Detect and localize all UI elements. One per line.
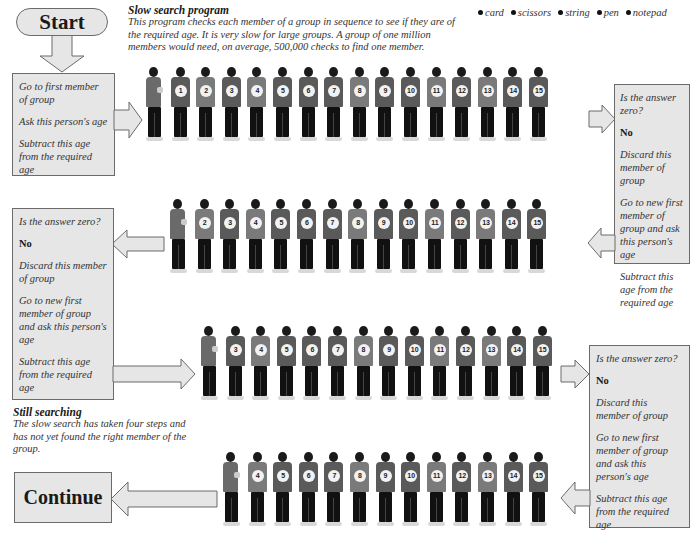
group-member: 15 bbox=[532, 322, 552, 402]
group-member: 5 bbox=[270, 195, 290, 275]
group-member: 5 bbox=[272, 448, 292, 528]
group-member: 9 bbox=[373, 195, 393, 275]
bullet-icon bbox=[597, 10, 602, 15]
program-title: Slow search program bbox=[128, 4, 468, 16]
group-member: 7 bbox=[322, 195, 342, 275]
group-member: 9 bbox=[378, 322, 398, 402]
group-member: 7 bbox=[327, 322, 347, 402]
bullet-icon bbox=[558, 10, 563, 15]
step3-box: Is the answer zero? No Discard this memb… bbox=[12, 208, 114, 400]
program-header: Slow search program This program checks … bbox=[128, 4, 468, 54]
group-member: 6 bbox=[296, 195, 316, 275]
group-member: 6 bbox=[298, 448, 318, 528]
group-member: 11 bbox=[426, 63, 446, 143]
group-member: 10 bbox=[404, 322, 424, 402]
group-member: 2 bbox=[195, 63, 215, 143]
group-member: 1 bbox=[170, 63, 190, 143]
group-member: 11 bbox=[429, 322, 449, 402]
arrow-down-icon bbox=[38, 34, 86, 74]
group-member: 7 bbox=[323, 63, 343, 143]
group-member: 13 bbox=[477, 448, 497, 528]
legend-item-pen: pen bbox=[597, 7, 619, 18]
group-member: 14 bbox=[501, 195, 521, 275]
group-member: 12 bbox=[455, 322, 475, 402]
group-member: 8 bbox=[353, 322, 373, 402]
arrow-right-icon bbox=[114, 102, 142, 138]
group-member: 11 bbox=[424, 195, 444, 275]
legend-item-string: string bbox=[558, 7, 590, 18]
bullet-icon bbox=[478, 10, 483, 15]
group-row-2: 2 3 4 5 6 7 8 9 10 11 12 13 14 15 bbox=[168, 195, 552, 275]
group-member: 15 bbox=[528, 63, 548, 143]
group-member: 12 bbox=[451, 63, 471, 143]
arrow-left-icon bbox=[111, 482, 217, 516]
searcher bbox=[168, 195, 188, 275]
group-row-1: 1 2 3 4 5 6 7 8 9 10 11 12 13 14 15 bbox=[144, 63, 554, 143]
group-member: 15 bbox=[526, 195, 546, 275]
group-member: 8 bbox=[347, 195, 367, 275]
group-member: 4 bbox=[245, 195, 265, 275]
searcher bbox=[199, 322, 219, 402]
arrow-right-icon bbox=[113, 359, 195, 389]
group-member: 4 bbox=[246, 63, 266, 143]
group-member: 11 bbox=[426, 448, 446, 528]
legend-item-scissors: scissors bbox=[511, 7, 551, 18]
group-member: 3 bbox=[225, 322, 245, 402]
group-member: 9 bbox=[374, 63, 394, 143]
step2-box: Is the answer zero? No Discard this memb… bbox=[614, 84, 690, 264]
status-block: Still searching The slow search has take… bbox=[13, 406, 188, 456]
group-member: 10 bbox=[400, 448, 420, 528]
status-description: The slow search has taken four steps and… bbox=[13, 418, 188, 456]
arrow-right-icon bbox=[561, 360, 589, 388]
legend-item-notepad: notepad bbox=[626, 7, 667, 18]
continue-button[interactable]: Continue bbox=[14, 472, 112, 523]
group-member: 13 bbox=[475, 195, 495, 275]
group-member: 13 bbox=[481, 322, 501, 402]
group-member: 5 bbox=[276, 322, 296, 402]
arrow-left-icon bbox=[588, 228, 615, 258]
step4-box: Is the answer zero? No Discard this memb… bbox=[589, 345, 690, 528]
status-title: Still searching bbox=[13, 406, 188, 418]
group-member: 6 bbox=[298, 63, 318, 143]
start-button[interactable]: Start bbox=[16, 8, 108, 36]
group-member: 7 bbox=[323, 448, 343, 528]
searcher bbox=[221, 448, 241, 528]
group-member: 14 bbox=[506, 322, 526, 402]
group-member: 8 bbox=[349, 448, 369, 528]
group-member: 4 bbox=[250, 322, 270, 402]
group-member: 8 bbox=[349, 63, 369, 143]
group-row-4: 4 5 6 7 8 9 10 11 12 13 14 15 bbox=[221, 448, 554, 528]
group-member: 12 bbox=[450, 195, 470, 275]
group-member: 9 bbox=[375, 448, 395, 528]
group-member: 4 bbox=[247, 448, 267, 528]
arrow-left-icon bbox=[561, 482, 590, 514]
group-member: 3 bbox=[219, 195, 239, 275]
searcher bbox=[144, 63, 164, 143]
group-member: 5 bbox=[272, 63, 292, 143]
bullet-icon bbox=[626, 10, 631, 15]
arrow-left-icon bbox=[112, 230, 164, 258]
group-member: 13 bbox=[477, 63, 497, 143]
group-row-3: 3 4 5 6 7 8 9 10 11 12 13 14 15 bbox=[199, 322, 557, 402]
group-member: 14 bbox=[502, 63, 522, 143]
group-member: 15 bbox=[528, 448, 548, 528]
group-member: 6 bbox=[301, 322, 321, 402]
group-member: 3 bbox=[221, 63, 241, 143]
legend: card scissors string pen notepad bbox=[478, 7, 667, 18]
arrow-right-icon bbox=[589, 105, 615, 133]
group-member: 10 bbox=[398, 195, 418, 275]
group-member: 10 bbox=[400, 63, 420, 143]
bullet-icon bbox=[511, 10, 516, 15]
group-member: 12 bbox=[451, 448, 471, 528]
group-member: 14 bbox=[503, 448, 523, 528]
step1-box: Go to first member of group Ask this per… bbox=[12, 73, 115, 176]
legend-item-card: card bbox=[478, 7, 504, 18]
program-description: This program checks each member of a gro… bbox=[128, 16, 468, 54]
group-member: 2 bbox=[194, 195, 214, 275]
